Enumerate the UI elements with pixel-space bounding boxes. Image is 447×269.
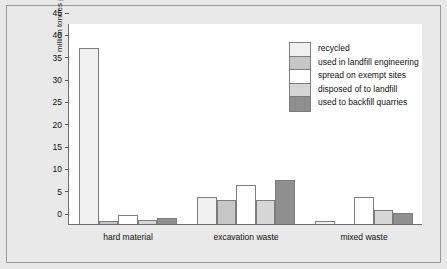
bar <box>354 197 374 224</box>
y-tick-40: 40 <box>46 30 69 40</box>
y-tick-20: 20 <box>46 120 69 130</box>
bar-group: hard material <box>69 24 187 224</box>
y-tick-45: 45 <box>46 8 69 18</box>
bar <box>315 221 335 224</box>
bars-container <box>187 24 305 224</box>
legend-label: recycled <box>318 42 419 56</box>
y-tick-10: 10 <box>46 164 69 174</box>
bar <box>275 180 295 224</box>
y-tick-label: 0 <box>46 209 62 219</box>
bar <box>79 48 99 224</box>
legend-label: disposed of to landfill <box>318 83 419 97</box>
y-tick-label: 15 <box>46 142 62 152</box>
y-tick-label: 20 <box>46 120 62 130</box>
y-tick-30: 30 <box>46 75 69 85</box>
legend-swatch <box>290 57 310 71</box>
legend-swatches <box>289 42 311 112</box>
y-tick-0: 0 <box>46 209 69 219</box>
x-axis-label: excavation waste <box>213 232 278 242</box>
y-tick-5: 5 <box>46 187 69 197</box>
legend-label: used to backfill quarries <box>318 96 419 110</box>
chart-figure: million tonnes per year 0510152025303540… <box>0 0 447 269</box>
x-axis-label: hard material <box>103 232 153 242</box>
y-tick-35: 35 <box>46 53 69 63</box>
legend-swatch <box>290 84 310 98</box>
bar <box>217 200 237 224</box>
figure-frame: million tonnes per year 0510152025303540… <box>6 5 441 263</box>
y-tick-label: 40 <box>46 30 62 40</box>
y-tick-label: 10 <box>46 164 62 174</box>
y-tick-15: 15 <box>46 142 69 152</box>
y-tick-mark <box>65 13 69 14</box>
legend-label: spread on exempt sites <box>318 69 419 83</box>
bar <box>99 221 119 224</box>
bar <box>157 218 177 224</box>
y-tick-label: 30 <box>46 75 62 85</box>
legend-swatch <box>290 70 310 84</box>
y-tick-label: 25 <box>46 97 62 107</box>
bars-container <box>69 24 187 224</box>
legend-labels: recycledused in landfill engineeringspre… <box>318 42 419 112</box>
bar <box>138 220 158 224</box>
bar-group: excavation waste <box>187 24 305 224</box>
bar <box>393 213 413 224</box>
bar <box>256 200 276 224</box>
bar <box>374 210 394 224</box>
legend-swatch <box>290 97 310 111</box>
bar <box>236 185 256 224</box>
y-tick-label: 35 <box>46 53 62 63</box>
bar <box>118 215 138 224</box>
y-tick-label: 45 <box>46 8 62 18</box>
y-tick-25: 25 <box>46 97 69 107</box>
legend-label: used in landfill engineering <box>318 56 419 70</box>
chart-legend: recycledused in landfill engineeringspre… <box>289 42 419 112</box>
legend-swatch <box>290 43 310 57</box>
bar <box>197 197 217 224</box>
x-axis-label: mixed waste <box>340 232 387 242</box>
y-tick-label: 5 <box>46 187 62 197</box>
